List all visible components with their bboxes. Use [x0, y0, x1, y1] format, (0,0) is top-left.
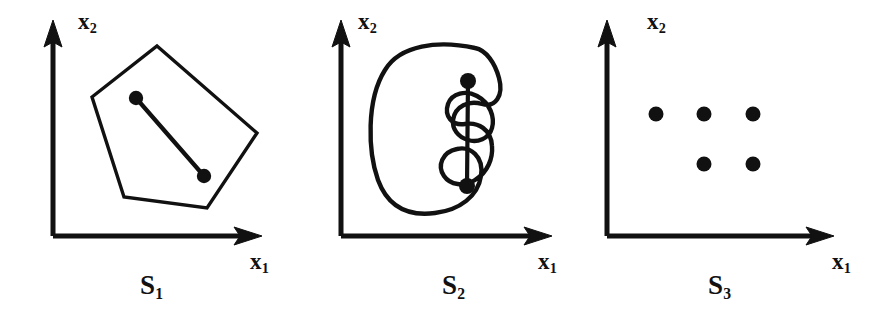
point-marker	[697, 157, 712, 172]
panel-s1: x2 x1 S1	[0, 0, 292, 319]
set-label-s2: S2	[442, 272, 465, 299]
chord-segment-s1	[136, 98, 204, 176]
point-marker	[197, 169, 211, 183]
convex-polygon-s1	[92, 46, 257, 208]
chord-segment-s2	[467, 81, 468, 186]
x-axis-label: x1	[832, 250, 851, 273]
y-axis-label: x2	[647, 10, 666, 33]
point-marker	[649, 107, 664, 122]
panel-s2: x2 x1 S2	[292, 0, 584, 319]
set-label-s3: S3	[708, 272, 731, 299]
point-marker	[460, 73, 476, 89]
y-axis-label: x2	[78, 10, 97, 33]
point-marker	[746, 157, 761, 172]
axes-s3	[598, 20, 834, 245]
point-marker	[129, 91, 143, 105]
point-marker	[697, 107, 712, 122]
point-marker	[459, 178, 475, 194]
axes-s1	[44, 20, 262, 245]
non-convex-boundary-s2	[371, 44, 501, 213]
panel-s3: x2 x1 S3	[584, 0, 876, 319]
discrete-points-s3	[649, 107, 761, 172]
point-marker	[746, 107, 761, 122]
set-label-s1: S1	[140, 272, 163, 299]
x-axis-label: x1	[250, 250, 269, 273]
y-axis-label: x2	[358, 10, 377, 33]
x-axis-label: x1	[538, 250, 557, 273]
convexity-figure: x2 x1 S1 x2 x1 S2	[0, 0, 877, 319]
